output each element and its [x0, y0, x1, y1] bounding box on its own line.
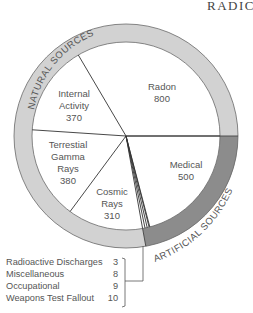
- slice-label-internal-1: Internal: [58, 88, 90, 99]
- slice-label-radon: Radon: [148, 81, 176, 92]
- legend-value: 9: [113, 280, 118, 292]
- slice-label-terrestial-2: Gamma: [51, 151, 86, 162]
- legend-row: Radioactive Discharges 3: [6, 256, 118, 268]
- legend-label: Weapons Test Fallout: [6, 292, 94, 304]
- callout-bracket: [122, 246, 143, 307]
- slice-label-cosmic-1: Cosmic: [96, 186, 128, 197]
- slice-label-cosmic-2: Rays: [101, 198, 123, 209]
- artificial-sources-ring: [144, 136, 229, 237]
- legend-value: 3: [113, 256, 118, 268]
- legend-value: 8: [113, 268, 118, 280]
- slice-label-medical: Medical: [170, 159, 203, 170]
- legend-value: 10: [108, 292, 118, 304]
- radiation-pie-chart: RADIC NATURAL SOURCES ARTIFICIAL SOURCES…: [0, 0, 253, 313]
- chart-title: RADIC: [207, 0, 253, 13]
- slice-value-internal: 370: [66, 112, 82, 123]
- legend-label: Miscellaneous: [6, 268, 64, 280]
- slice-label-terrestial-1: Terrestial: [49, 139, 88, 150]
- legend-label: Occupational: [6, 280, 60, 292]
- slice-label-internal-2: Activity: [59, 100, 89, 111]
- legend-label: Radioactive Discharges: [6, 256, 103, 268]
- small-sources-legend: Radioactive Discharges 3 Miscellaneous 8…: [6, 256, 118, 304]
- slice-value-terrestial: 380: [60, 175, 76, 186]
- slice-label-terrestial-3: Rays: [57, 163, 79, 174]
- slice-value-radon: 800: [154, 93, 170, 104]
- slice-value-medical: 500: [178, 171, 194, 182]
- legend-row: Weapons Test Fallout 10: [6, 292, 118, 304]
- legend-row: Occupational 9: [6, 280, 118, 292]
- legend-row: Miscellaneous 8: [6, 268, 118, 280]
- slice-value-cosmic: 310: [104, 210, 120, 221]
